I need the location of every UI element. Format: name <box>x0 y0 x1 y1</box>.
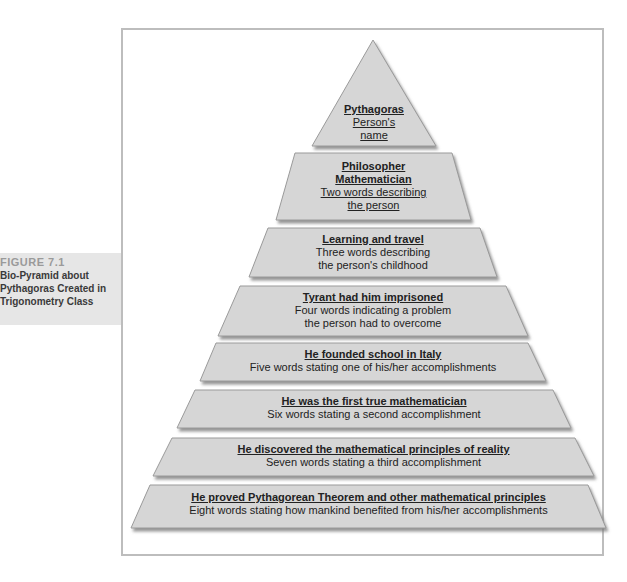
tier-prompt: Eight words stating how mankind benefite… <box>131 504 606 517</box>
tier-answer: He proved Pythagorean Theorem and other … <box>131 491 606 504</box>
tier-prompt: Six words stating a second accomplishmen… <box>177 408 571 421</box>
tier-prompt: the person's childhood <box>249 259 497 272</box>
tier-prompt: Five words stating one of his/her accomp… <box>200 361 546 374</box>
tier-3-text: Learning and travelThree words describin… <box>249 233 497 272</box>
tier-5-text: He founded school in ItalyFive words sta… <box>200 348 546 374</box>
tier-answer: He discovered the mathematical principle… <box>153 443 594 456</box>
tier-prompt: Two words describing <box>276 186 471 199</box>
tier-answer: He was the first true mathematician <box>177 395 571 408</box>
tier-prompt: Three words describing <box>249 246 497 259</box>
tier-prompt: the person had to overcome <box>218 317 528 330</box>
tier-4-text: Tyrant had him imprisonedFour words indi… <box>218 291 528 330</box>
tier-answer: Tyrant had him imprisoned <box>218 291 528 304</box>
tier-answer: Mathematician <box>276 173 471 186</box>
tier-2-text: PhilosopherMathematicianTwo words descri… <box>276 160 471 212</box>
tier-answer: Pythagoras <box>312 103 436 116</box>
tier-prompt: the person <box>276 199 471 212</box>
tier-1-text: PythagorasPerson'sname <box>312 103 436 142</box>
tier-prompt: Four words indicating a problem <box>218 304 528 317</box>
tier-answer: He founded school in Italy <box>200 348 546 361</box>
tier-6-text: He was the first true mathematicianSix w… <box>177 395 571 421</box>
tier-prompt: Seven words stating a third accomplishme… <box>153 456 594 469</box>
tier-prompt: Person's <box>312 116 436 129</box>
tier-8-text: He proved Pythagorean Theorem and other … <box>131 491 606 517</box>
tier-prompt: name <box>312 129 436 142</box>
tier-7-text: He discovered the mathematical principle… <box>153 443 594 469</box>
tier-answer: Learning and travel <box>249 233 497 246</box>
tier-answer: Philosopher <box>276 160 471 173</box>
